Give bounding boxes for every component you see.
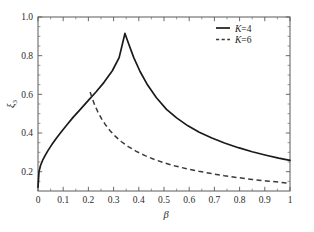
legend-label-k4: K=4: [234, 24, 252, 34]
y-tick-label: 0.8: [21, 51, 33, 61]
x-axis-title: β: [162, 209, 169, 220]
chart-figure: 00.10.20.30.40.50.60.70.80.910.20.40.60.…: [0, 0, 314, 232]
x-tick-label: 0.6: [183, 195, 195, 205]
plot-frame: [38, 17, 290, 191]
x-tick-label: 0.7: [208, 195, 220, 205]
y-axis-title: ξ3: [5, 100, 19, 109]
y-tick-label: 0.4: [21, 128, 33, 138]
y-tick-label: 1.0: [21, 12, 33, 22]
x-tick-label: 1: [288, 195, 293, 205]
x-tick-label: 0.2: [82, 195, 94, 205]
series-line-k4: [38, 33, 290, 187]
series-line-k6: [90, 92, 290, 183]
y-tick-label: 0.6: [21, 90, 33, 100]
y-tick-label: 0.2: [21, 167, 33, 177]
x-tick-label: 0.8: [234, 195, 246, 205]
chart-canvas: 00.10.20.30.40.50.60.70.80.910.20.40.60.…: [0, 0, 314, 232]
x-tick-label: 0: [36, 195, 41, 205]
y-axis-title-text: ξ3: [5, 100, 19, 109]
x-tick-label: 0.4: [133, 195, 145, 205]
x-tick-label: 0.1: [57, 195, 69, 205]
y-axis-title-subscript: 3: [11, 100, 19, 104]
x-tick-label: 0.9: [259, 195, 271, 205]
x-tick-label: 0.3: [108, 195, 120, 205]
legend-label-k6: K=6: [234, 35, 252, 45]
x-tick-label: 0.5: [158, 195, 170, 205]
